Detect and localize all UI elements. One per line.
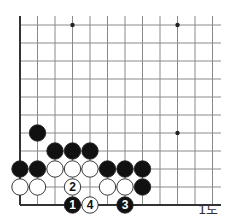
black-stone bbox=[29, 125, 45, 141]
move-number-label: 4 bbox=[87, 198, 94, 212]
diagram-caption: 1도 bbox=[198, 199, 218, 217]
star-point bbox=[175, 131, 179, 135]
move-number-label: 1 bbox=[69, 198, 76, 212]
white-stone bbox=[99, 179, 115, 195]
white-stone bbox=[117, 179, 133, 195]
white-stone bbox=[29, 179, 45, 195]
star-point bbox=[175, 23, 179, 27]
go-board-diagram: 2143 bbox=[0, 0, 237, 217]
black-stone bbox=[117, 161, 133, 177]
white-stone bbox=[64, 161, 80, 177]
black-stone bbox=[134, 161, 150, 177]
white-stone bbox=[82, 161, 98, 177]
white-stone bbox=[12, 179, 28, 195]
black-stone bbox=[82, 143, 98, 159]
black-stone bbox=[64, 143, 80, 159]
white-stone bbox=[47, 161, 63, 177]
move-number-label: 3 bbox=[122, 198, 129, 212]
black-stone bbox=[47, 143, 63, 159]
black-stone bbox=[99, 161, 115, 177]
black-stone bbox=[29, 161, 45, 177]
move-number-label: 2 bbox=[69, 180, 76, 194]
star-point bbox=[70, 23, 74, 27]
black-stone bbox=[134, 179, 150, 195]
black-stone bbox=[12, 161, 28, 177]
